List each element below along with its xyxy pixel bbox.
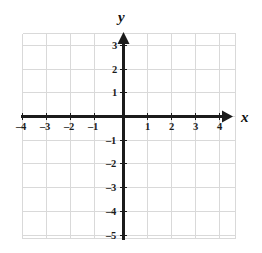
x-tick-label-4: 4 — [217, 122, 222, 133]
x-tick-label--3: –3 — [40, 122, 50, 133]
x-tick-label-2: 2 — [169, 122, 174, 133]
y-tick-label-1: 1 — [112, 88, 117, 99]
x-tick-label-1: 1 — [145, 122, 150, 133]
y-tick-label-2: 2 — [112, 65, 117, 76]
y-tick-label-3: 3 — [112, 41, 117, 52]
x-tick-label--1: –1 — [88, 122, 98, 133]
x-tick-label-3: 3 — [193, 122, 198, 133]
x-tick-label--2: –2 — [64, 122, 74, 133]
y-tick-label--2: –2 — [106, 159, 116, 170]
y-axis-label: y — [118, 10, 125, 25]
coordinate-plane-figure: –4 –3 –2 –1 1 2 3 4 3 2 1 –1 –2 –3 –4 –5… — [0, 0, 262, 253]
arrow-right-icon — [222, 111, 233, 123]
y-axis — [118, 32, 130, 240]
x-axis — [21, 111, 233, 123]
grid-lines — [23, 34, 236, 239]
x-axis-label: x — [241, 110, 249, 125]
y-tick-label--1: –1 — [106, 136, 116, 147]
x-tick-label--4: –4 — [16, 122, 26, 133]
y-tick-label--4: –4 — [106, 207, 116, 218]
y-tick-label--3: –3 — [106, 183, 116, 194]
y-tick-label--5: –5 — [106, 231, 116, 242]
